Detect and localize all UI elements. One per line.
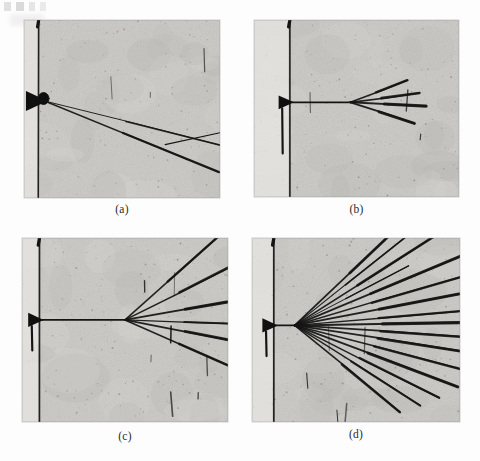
panel-caption-a: (a) xyxy=(24,203,220,215)
photographic-plate-d xyxy=(252,238,460,422)
photographic-plate-c xyxy=(22,238,228,422)
scan-artifact-top-left xyxy=(4,2,50,11)
figure-panel-c xyxy=(22,238,228,422)
photographic-plate-a xyxy=(24,20,220,198)
panel-caption-c: (c) xyxy=(22,430,228,442)
figure-sheet: (a) (b) (c) (d) xyxy=(0,0,480,461)
photographic-plate-b xyxy=(254,20,459,197)
figure-panel-a xyxy=(24,20,220,198)
panel-caption-d: (d) xyxy=(252,428,460,440)
figure-panel-d xyxy=(252,238,460,422)
figure-panel-b xyxy=(254,20,459,197)
panel-caption-b: (b) xyxy=(254,203,459,215)
